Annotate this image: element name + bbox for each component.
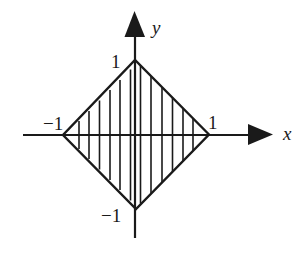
tick-label-x-pos: 1 bbox=[208, 113, 218, 132]
tick-label-y-pos: 1 bbox=[111, 52, 121, 71]
y-axis-label: y bbox=[152, 18, 160, 37]
x-axis-label: x bbox=[283, 124, 291, 143]
diamond-region-diagram: y x 1 1 −1 −1 bbox=[0, 0, 308, 253]
tick-label-y-neg: −1 bbox=[101, 206, 121, 225]
y-axis-arrowhead-icon bbox=[125, 11, 146, 37]
tick-label-x-neg: −1 bbox=[43, 114, 63, 133]
x-axis-arrowhead-icon bbox=[248, 124, 273, 145]
